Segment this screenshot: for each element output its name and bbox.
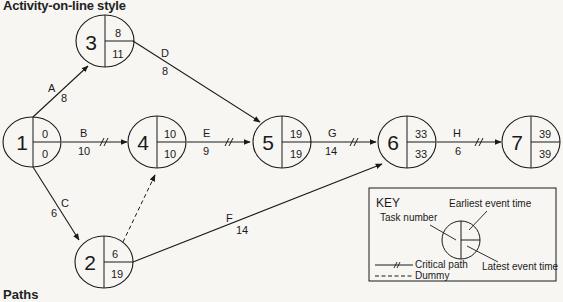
node-1-number: 1 (16, 131, 28, 154)
node-7-latest: 39 (539, 148, 551, 160)
node-2-latest: 19 (111, 268, 123, 280)
node-5-latest: 19 (290, 148, 302, 160)
event-node-1: 1 0 0 (3, 117, 61, 167)
activity-c-label: C (61, 197, 69, 209)
activity-b-duration: 10 (78, 145, 90, 157)
node-4-number: 4 (137, 131, 149, 154)
node-4-latest: 10 (164, 148, 176, 160)
activity-b-edge: B 10 (62, 127, 127, 157)
node-5-earliest: 19 (290, 128, 302, 140)
node-6-latest: 33 (415, 148, 427, 160)
event-node-4: 4 10 10 (128, 116, 186, 168)
activity-d-duration: 8 (162, 65, 168, 77)
event-node-7: 7 39 39 (502, 116, 560, 168)
activity-g-edge: G 14 (310, 127, 376, 157)
node-7-earliest: 39 (539, 128, 551, 140)
event-node-3: 3 8 11 (76, 15, 134, 67)
activity-a-edge: A 8 (33, 66, 88, 117)
activity-c-edge: C 6 (33, 167, 79, 240)
node-3-number: 3 (85, 31, 97, 54)
node-3-earliest: 8 (115, 27, 121, 39)
node-6-earliest: 33 (415, 128, 427, 140)
legend-latest-label: Latest event time (482, 261, 559, 272)
node-5-number: 5 (262, 131, 274, 154)
event-node-5: 5 19 19 (253, 116, 311, 168)
activity-f-label: F (226, 212, 233, 224)
legend-dummy-label: Dummy (415, 270, 449, 281)
legend-critical-path: Critical path (375, 259, 468, 270)
activity-g-duration: 14 (325, 145, 337, 157)
activity-a-duration: 8 (61, 92, 67, 104)
activity-f-duration: 14 (236, 224, 248, 236)
activity-g-label: G (328, 127, 337, 139)
legend-key: KEY Earliest event time Task number Late… (369, 188, 559, 281)
event-node-6: 6 33 33 (378, 116, 436, 168)
activity-h-label: H (453, 127, 461, 139)
node-7-number: 7 (511, 131, 523, 154)
node-2-earliest: 6 (112, 248, 118, 260)
activity-d-label: D (161, 47, 169, 59)
node-1-latest: 0 (42, 148, 48, 160)
node-3-latest: 11 (112, 48, 123, 60)
legend-task-number-label: Task number (380, 212, 438, 223)
dummy-activity-edge (123, 175, 155, 242)
activity-e-edge: E 9 (187, 127, 250, 157)
activity-a-label: A (48, 82, 56, 94)
legend-node-icon (442, 221, 480, 259)
activity-h-edge: H 6 (437, 127, 501, 157)
paths-heading: Paths (3, 287, 38, 302)
node-4-earliest: 10 (164, 128, 176, 140)
legend-earliest-label: Earliest event time (449, 198, 532, 209)
activity-h-duration: 6 (455, 145, 461, 157)
activity-f-edge: F 14 (133, 164, 382, 262)
event-node-2: 2 6 19 (75, 236, 133, 288)
activity-d-edge: D 8 (133, 41, 260, 122)
activity-b-label: B (80, 127, 87, 139)
node-1-earliest: 0 (42, 128, 48, 140)
legend-title: KEY (376, 196, 400, 210)
legend-dummy: Dummy (375, 270, 449, 281)
node-6-number: 6 (387, 131, 399, 154)
activity-e-label: E (203, 127, 210, 139)
activity-c-duration: 6 (51, 207, 57, 219)
legend-critical-path-label: Critical path (415, 259, 468, 270)
node-2-number: 2 (84, 251, 96, 274)
activity-e-duration: 9 (203, 145, 209, 157)
